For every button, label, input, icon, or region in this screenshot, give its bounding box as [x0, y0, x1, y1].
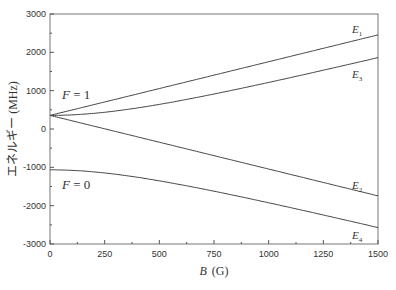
curves — [50, 35, 378, 228]
curve-e3 — [50, 58, 378, 116]
y-tick-label: -1000 — [23, 162, 46, 172]
curve-label-e1: E1 — [351, 23, 363, 38]
axis-ticks: 0250500750100012501500-3000-2000-1000010… — [23, 9, 388, 259]
curve-e2 — [50, 115, 378, 195]
plot-border — [50, 14, 378, 244]
y-tick-label: 3000 — [26, 9, 46, 19]
plot-frame — [50, 14, 378, 244]
x-tick-label: 500 — [152, 249, 167, 259]
y-tick-label: -3000 — [23, 239, 46, 249]
x-tick-label: 750 — [206, 249, 221, 259]
y-tick-label: -2000 — [23, 201, 46, 211]
energy-level-chart: 0250500750100012501500-3000-2000-1000010… — [0, 0, 396, 290]
x-tick-label: 0 — [47, 249, 52, 259]
x-axis-var: B — [199, 264, 207, 278]
y-tick-label: 1000 — [26, 86, 46, 96]
y-axis-title: エネルギー (MHz) — [6, 81, 20, 177]
curve-label-e4: E4 — [351, 229, 363, 244]
labels: E1E3E2E4F = 1F = 0 — [61, 23, 363, 244]
y-tick-label: 2000 — [26, 47, 46, 57]
curve-e1 — [50, 35, 378, 116]
x-tick-label: 1250 — [313, 249, 333, 259]
x-tick-label: 1500 — [368, 249, 388, 259]
curve-e4 — [50, 170, 378, 228]
region-label-f1: F = 1 — [61, 87, 90, 102]
x-axis-title: B (G) — [199, 264, 228, 278]
curve-label-e3: E3 — [351, 68, 363, 83]
curve-label-e2: E2 — [351, 179, 363, 194]
x-tick-label: 250 — [97, 249, 112, 259]
x-axis-unit: (G) — [212, 264, 229, 278]
x-tick-label: 1000 — [259, 249, 279, 259]
y-tick-label: 0 — [41, 124, 46, 134]
region-label-f0: F = 0 — [61, 177, 90, 192]
